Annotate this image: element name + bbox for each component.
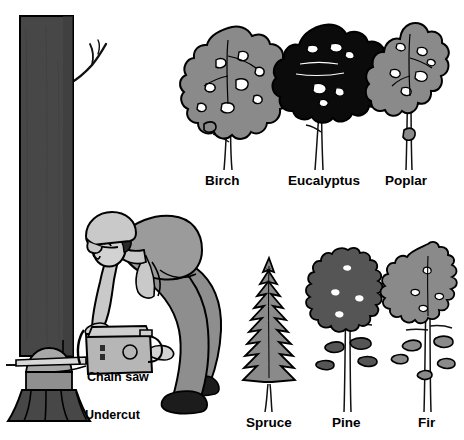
label-eucalyptus: Eucalyptus bbox=[288, 174, 360, 188]
birch-low-leaf bbox=[204, 122, 216, 132]
illustration-canvas: Chain saw Undercut Birch Eucalyptus Popl… bbox=[0, 0, 464, 440]
pine-canopy bbox=[306, 248, 383, 332]
label-chain-saw: Chain saw bbox=[87, 371, 149, 384]
label-fir: Fir bbox=[418, 416, 435, 430]
standing-tree-trunk bbox=[20, 16, 73, 366]
label-pine: Pine bbox=[332, 416, 361, 430]
flared-stump-base bbox=[8, 390, 90, 421]
boot-near bbox=[162, 391, 208, 414]
illustration-artwork bbox=[0, 0, 464, 440]
label-poplar: Poplar bbox=[385, 174, 427, 188]
label-birch: Birch bbox=[205, 174, 240, 188]
label-spruce: Spruce bbox=[246, 416, 292, 430]
saw-body bbox=[86, 334, 152, 374]
undercut-wedge bbox=[26, 348, 72, 390]
poplar-low-leaf bbox=[403, 128, 415, 140]
label-undercut: Undercut bbox=[85, 409, 140, 422]
